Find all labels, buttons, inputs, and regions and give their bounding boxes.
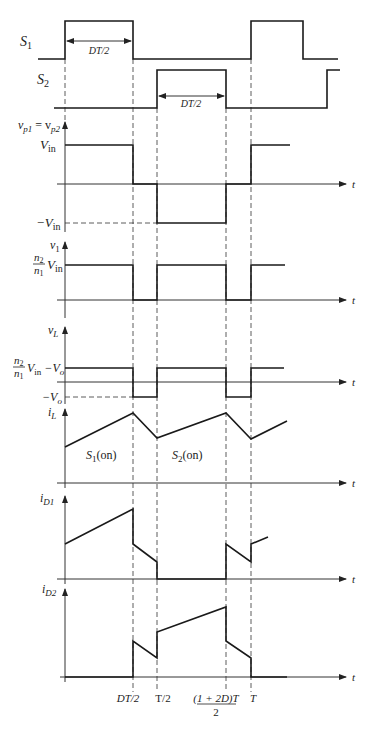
time-labels: DT/2 T/2 (1 + 2D)T 2 T <box>116 692 257 718</box>
il-waveform <box>65 413 287 447</box>
vp-waveform-group: t vp1 = vp2 Vin −Vin <box>18 118 356 232</box>
id1-t-label: t <box>352 573 356 585</box>
il-waveform-group: t iL S1(on) S2(on) <box>48 405 356 489</box>
id1-waveform-group: t iD1 <box>40 491 356 585</box>
time-label-t2: T/2 <box>155 692 170 704</box>
vl-waveform-group: t vL n2 n1 Vin −Vo −Vo <box>13 323 356 406</box>
il-region-s1-on: S1(on) <box>86 448 117 464</box>
v1-waveform <box>65 265 285 300</box>
vl-t-label: t <box>352 376 356 388</box>
svg-text:n2: n2 <box>34 251 44 265</box>
time-label-1p2dt-denominator: 2 <box>213 706 219 718</box>
vl-label: vL <box>48 323 58 339</box>
v1-label: v1 <box>50 238 60 254</box>
id2-t-label: t <box>352 671 356 683</box>
s1-label: S1 <box>20 34 32 51</box>
svg-text:n1: n1 <box>14 367 24 381</box>
time-markers <box>65 59 251 692</box>
svg-text:Vin: Vin <box>47 257 63 274</box>
id2-label: iD2 <box>42 582 57 598</box>
waveform-diagram: S1 DT/2 S2 DT/2 t vp1 = vp2 Vin −Vin t v… <box>0 0 378 732</box>
s2-duration-label: DT/2 <box>180 98 202 109</box>
svg-text:n2: n2 <box>14 354 24 368</box>
vp-high-level-label: Vin <box>40 137 56 154</box>
vl-high-level-label: n2 n1 Vin −Vo <box>13 354 65 381</box>
s2-label: S2 <box>37 72 49 89</box>
time-label-dt2: DT/2 <box>116 692 140 704</box>
il-t-label: t <box>352 477 356 489</box>
vl-low-level-label: −Vo <box>42 390 62 406</box>
vp-t-label: t <box>352 178 356 190</box>
v1-high-level-label: n2 n1 Vin <box>33 251 63 278</box>
time-label-t: T <box>250 692 257 704</box>
s1-waveform <box>38 21 338 59</box>
id1-waveform <box>65 509 268 579</box>
s1-duration-label: DT/2 <box>88 45 110 56</box>
svg-text:Vin −Vo: Vin −Vo <box>27 361 65 377</box>
vp-low-level-label: −Vin <box>36 215 61 232</box>
time-label-1p2dt-numerator: (1 + 2D)T <box>193 692 239 705</box>
id2-waveform <box>65 607 287 677</box>
s2-waveform-group: S2 DT/2 <box>37 70 340 109</box>
il-label: iL <box>48 405 56 421</box>
s1-waveform-group: S1 DT/2 <box>20 21 338 59</box>
vp-label: vp1 = vp2 <box>18 118 61 134</box>
id2-waveform-group: t iD2 <box>42 582 356 683</box>
v1-t-label: t <box>352 294 356 306</box>
id1-label: iD1 <box>40 491 54 507</box>
svg-text:n1: n1 <box>34 264 44 278</box>
v1-waveform-group: t v1 n2 n1 Vin <box>33 238 356 318</box>
il-region-s2-on: S2(on) <box>172 448 203 464</box>
